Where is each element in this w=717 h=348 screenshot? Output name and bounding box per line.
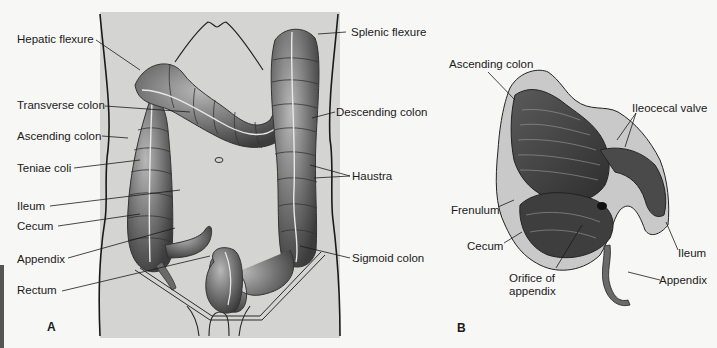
label-cecum-a: Cecum [17,220,53,233]
label-ileum-a: Ileum [17,200,45,213]
label-haustra: Haustra [352,170,392,183]
label-hepatic-flexure: Hepatic flexure [17,33,94,46]
label-ascending-colon-b: Ascending colon [449,58,533,71]
label-descending-colon: Descending colon [336,106,427,119]
label-appendix-a: Appendix [17,253,65,266]
sigmoid-rectum-shape [206,248,294,313]
label-splenic-flexure: Splenic flexure [351,26,426,39]
appendix-b-shape [602,245,630,306]
label-sigmoid-colon: Sigmoid colon [352,252,424,265]
label-ileocecal-valve: Ileocecal valve [632,102,707,115]
umbilicus [215,158,223,163]
label-cecum-b: Cecum [467,240,503,253]
panel-letter-a: A [47,320,56,334]
label-rectum: Rectum [17,284,57,297]
label-teniae-coli: Teniae coli [17,162,71,175]
ribcage-outline [175,22,263,70]
descending-colon-shape [271,29,319,267]
appendix-orifice [597,202,607,210]
label-orifice-of-appendix-line2: appendix [509,285,556,298]
label-transverse-colon: Transverse colon [17,99,105,112]
label-frenulum: Frenulum [451,204,500,217]
label-ascending-colon-a: Ascending colon [17,130,101,143]
label-ileum-b: Ileum [678,247,706,260]
label-appendix-b: Appendix [659,274,707,287]
panel-letter-b: B [457,321,466,335]
label-orifice-of-appendix-line1: Orifice of [509,272,555,285]
